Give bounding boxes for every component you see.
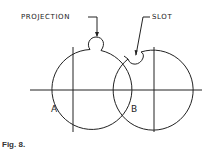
circle-a-outline xyxy=(52,50,132,130)
projection-bump xyxy=(88,37,103,51)
slot-notch xyxy=(124,52,143,64)
projection-arrowhead xyxy=(95,32,99,37)
projection-label: PROJECTION xyxy=(21,13,70,21)
circle-b-label: B xyxy=(131,104,137,114)
gear-diagram xyxy=(0,0,210,157)
circle-a-label: A xyxy=(51,104,57,114)
slot-label: SLOT xyxy=(152,13,172,21)
slot-leader xyxy=(136,17,150,55)
slot-arrowhead xyxy=(135,50,138,56)
figure-caption: Fig. 8. xyxy=(2,140,25,149)
